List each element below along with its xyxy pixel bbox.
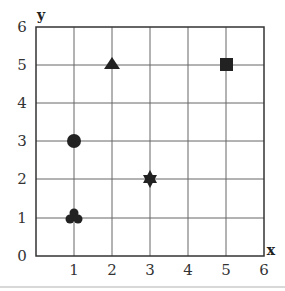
y-tick-0: 0 [17,247,27,265]
x-tick-3: 3 [145,261,155,279]
markers [66,57,234,224]
divider [0,286,285,288]
y-tick-4: 4 [17,94,27,112]
coordinate-grid: 6 5 4 3 2 1 0 1 2 3 4 5 6 y x [0,0,285,291]
x-tick-labels: 1 2 3 4 5 6 [69,261,269,279]
triangle-marker [104,57,120,69]
x-tick-6: 6 [259,261,269,279]
y-tick-3: 3 [17,132,27,150]
x-axis-label: x [267,242,276,258]
x-tick-5: 5 [221,261,231,279]
y-tick-2: 2 [17,170,27,188]
y-tick-1: 1 [17,209,27,227]
y-tick-labels: 6 5 4 3 2 1 0 [17,18,27,265]
y-axis-label: y [36,7,46,23]
x-tick-2: 2 [107,261,117,279]
x-tick-4: 4 [183,261,193,279]
x-tick-1: 1 [69,261,79,279]
circle-marker [67,134,81,148]
square-marker [220,58,233,71]
y-tick-5: 5 [17,56,27,74]
y-tick-6: 6 [17,18,27,36]
